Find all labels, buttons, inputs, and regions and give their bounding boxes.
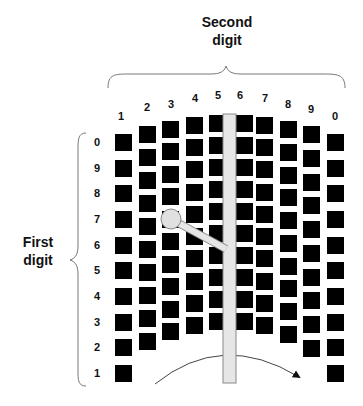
digit-square	[236, 313, 253, 330]
column-label: 2	[141, 101, 153, 113]
digit-square	[236, 137, 253, 154]
digit-square	[236, 225, 253, 242]
digit-square	[115, 134, 132, 151]
digit-square	[186, 117, 203, 134]
digit-square	[256, 117, 273, 134]
digit-square	[280, 121, 297, 138]
digit-square	[115, 160, 132, 177]
selector-knob[interactable]	[161, 209, 181, 229]
column-label: 9	[305, 103, 317, 115]
digit-square	[327, 160, 344, 177]
row-label: 1	[91, 367, 103, 379]
column-label: 1	[115, 110, 127, 122]
digit-square	[162, 166, 179, 183]
digit-square	[236, 159, 253, 176]
digit-square	[236, 291, 253, 308]
digit-square	[186, 184, 203, 201]
digit-square	[280, 258, 297, 275]
digit-square	[115, 339, 132, 356]
column-label: 3	[165, 98, 177, 110]
digit-square	[139, 218, 156, 235]
digit-square	[256, 161, 273, 178]
digit-square	[186, 250, 203, 267]
column-label: 8	[282, 98, 294, 110]
digit-square	[186, 206, 203, 223]
digit-square	[139, 287, 156, 304]
row-label: 0	[91, 136, 103, 148]
digit-square	[236, 269, 253, 286]
digit-square	[115, 185, 132, 202]
column-label: 5	[212, 89, 224, 101]
digit-square	[139, 333, 156, 350]
digit-square	[256, 206, 273, 223]
digit-square	[303, 126, 320, 143]
digit-square	[186, 317, 203, 334]
digit-square	[236, 181, 253, 198]
digit-square	[280, 235, 297, 252]
digit-square	[327, 288, 344, 305]
digit-square	[303, 197, 320, 214]
digit-square	[162, 188, 179, 205]
digit-square	[162, 233, 179, 250]
digit-square	[162, 323, 179, 340]
digit-square	[236, 115, 253, 132]
digit-square	[256, 228, 273, 245]
digit-square	[256, 184, 273, 201]
digit-square	[139, 149, 156, 166]
column-label: 4	[189, 92, 201, 104]
column-label: 6	[234, 89, 246, 101]
digit-square	[256, 273, 273, 290]
row-label: 5	[91, 264, 103, 276]
digit-square	[303, 340, 320, 357]
first-digit-brace	[70, 133, 86, 386]
digit-square	[327, 365, 344, 382]
row-label: 2	[91, 341, 103, 353]
column-label: 7	[259, 92, 271, 104]
row-label: 3	[91, 316, 103, 328]
digit-square	[303, 221, 320, 238]
digit-square	[115, 262, 132, 279]
row-label: 8	[91, 187, 103, 199]
digit-square	[139, 241, 156, 258]
digit-square	[115, 211, 132, 228]
digit-square	[186, 295, 203, 312]
digit-square	[280, 280, 297, 297]
digit-square	[280, 189, 297, 206]
second-digit-brace	[108, 66, 345, 88]
digit-square	[327, 314, 344, 331]
row-label: 7	[91, 213, 103, 225]
digit-square	[327, 185, 344, 202]
digit-square	[303, 269, 320, 286]
digit-square	[236, 203, 253, 220]
digit-square	[186, 139, 203, 156]
digit-square	[280, 303, 297, 320]
row-label: 9	[91, 162, 103, 174]
digit-square	[280, 326, 297, 343]
digit-square	[303, 292, 320, 309]
digit-square	[303, 150, 320, 167]
digit-square	[139, 172, 156, 189]
digit-square	[115, 288, 132, 305]
digit-square	[327, 262, 344, 279]
digit-square	[139, 195, 156, 212]
digit-square	[256, 317, 273, 334]
row-label: 4	[91, 290, 103, 302]
digit-square	[256, 139, 273, 156]
digit-square	[139, 310, 156, 327]
digit-square	[256, 295, 273, 312]
digit-square	[303, 245, 320, 262]
digit-selector-diagram	[0, 0, 363, 406]
digit-square	[327, 134, 344, 151]
digit-square	[115, 314, 132, 331]
digit-square	[162, 278, 179, 295]
digit-square	[327, 237, 344, 254]
digit-square	[186, 161, 203, 178]
digit-square	[115, 365, 132, 382]
column-label: 0	[329, 110, 341, 122]
digit-square	[139, 264, 156, 281]
digit-square	[162, 143, 179, 160]
row-label: 6	[91, 239, 103, 251]
digit-square	[115, 237, 132, 254]
digit-square	[280, 212, 297, 229]
digit-square	[186, 273, 203, 290]
